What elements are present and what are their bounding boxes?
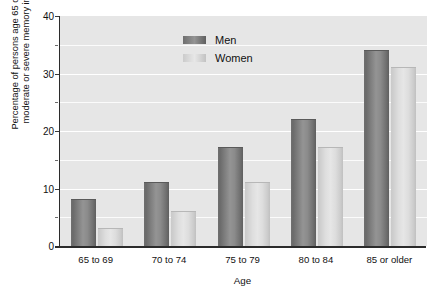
x-axis-tick-labels: 65 to 69 70 to 74 75 to 79 80 to 84 85 o… [59, 254, 426, 270]
y-tick-mark-35 [55, 45, 58, 46]
bar-women-80-to-84 [318, 147, 343, 246]
y-tick-label-20: 20 [26, 126, 54, 137]
legend-swatch-women-icon [183, 54, 206, 62]
bar-group-65-to-69 [60, 16, 133, 246]
bar-men-75-to-79 [218, 147, 243, 246]
bar-men-70-to-74 [144, 182, 169, 246]
x-axis-title: Age [59, 275, 426, 286]
y-tick-label-30: 30 [26, 68, 54, 79]
x-tick-label-70-to-74: 70 to 74 [132, 254, 205, 270]
y-axis-title-line1: Percentage of persons age 65 or older wi… [9, 0, 20, 130]
bar-group-85-or-older [354, 16, 427, 246]
bar-women-85-or-older [391, 67, 416, 246]
y-tick-label-0: 0 [26, 241, 54, 252]
legend-label-men: Men [215, 34, 236, 46]
y-tick-mark-5 [55, 217, 58, 218]
plot-area: Men Women [59, 16, 427, 246]
x-tick-label-85-or-older: 85 or older [353, 254, 426, 270]
x-axis-line [55, 246, 426, 248]
legend-label-women: Women [215, 52, 253, 64]
y-axis-tick-labels: 40 30 20 10 0 [26, 0, 54, 297]
x-tick-label-80-to-84: 80 to 84 [279, 254, 352, 270]
bar-women-65-to-69 [98, 228, 123, 246]
y-tick-mark-25 [55, 102, 58, 103]
legend: Men Women [183, 34, 253, 64]
legend-item-men: Men [183, 34, 253, 46]
legend-swatch-men-icon [183, 36, 206, 44]
bar-chart: Percentage of persons age 65 or older wi… [0, 0, 436, 297]
y-tick-mark-15 [55, 160, 58, 161]
y-tick-label-40: 40 [26, 11, 54, 22]
bar-women-70-to-74 [171, 211, 196, 247]
x-tick-label-75-to-79: 75 to 79 [206, 254, 279, 270]
bar-men-80-to-84 [291, 119, 316, 247]
bar-men-85-or-older [364, 50, 389, 247]
bar-group-80-to-84 [280, 16, 353, 246]
y-tick-label-10: 10 [26, 183, 54, 194]
legend-item-women: Women [183, 52, 253, 64]
bar-women-75-to-79 [245, 182, 270, 246]
bar-men-65-to-69 [71, 199, 96, 246]
x-tick-label-65-to-69: 65 to 69 [59, 254, 132, 270]
